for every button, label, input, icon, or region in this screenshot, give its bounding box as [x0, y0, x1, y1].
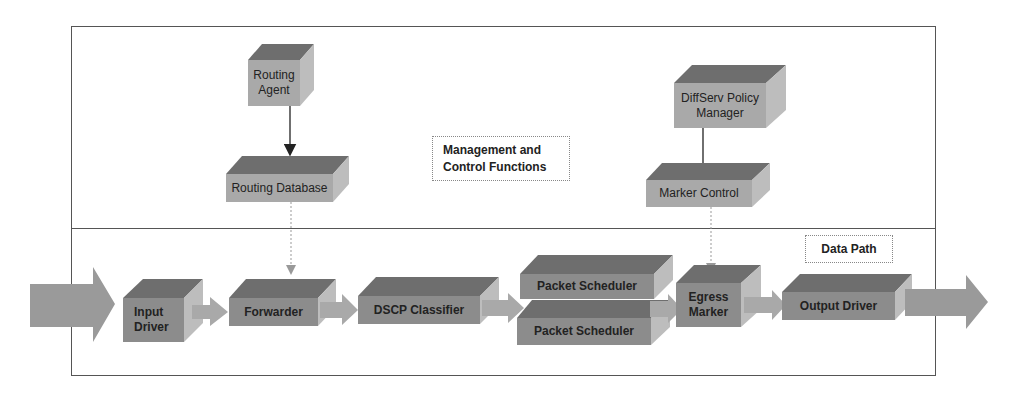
diffserv-policy-manager: DiffServ Policy Manager: [674, 83, 766, 128]
routing-agent: Routing Agent: [248, 60, 300, 106]
routing-agent-line1: Routing: [253, 68, 294, 83]
dscp-classifier-label: DSCP Classifier: [374, 303, 465, 318]
egress-marker: Egress Marker: [676, 283, 741, 327]
management-control-label: Management and Control Functions: [432, 136, 570, 181]
dscp-classifier: DSCP Classifier: [358, 296, 480, 324]
data-path-label-text: Data Path: [821, 242, 876, 256]
output-driver-label: Output Driver: [800, 299, 877, 314]
input-driver: Input Driver: [123, 298, 184, 342]
input-big-arrow: [30, 267, 115, 342]
packet-scheduler-2-label: Packet Scheduler: [534, 324, 634, 339]
management-label-line2: Control Functions: [443, 159, 546, 176]
packet-scheduler-1: Packet Scheduler: [520, 274, 654, 299]
egress-marker-line1: Egress: [688, 290, 728, 305]
marker-control-label: Marker Control: [659, 186, 738, 201]
input-driver-line2: Driver: [134, 320, 169, 335]
input-driver-line1: Input: [134, 305, 163, 320]
data-path-label: Data Path: [805, 235, 893, 263]
forwarder: Forwarder: [229, 298, 318, 326]
routing-database: Routing Database: [226, 174, 333, 202]
packet-scheduler-2: Packet Scheduler: [517, 318, 651, 345]
forwarder-label: Forwarder: [244, 305, 303, 320]
policy-manager-line2: Manager: [696, 106, 743, 121]
routing-database-label: Routing Database: [231, 181, 327, 196]
output-driver: Output Driver: [782, 292, 895, 320]
output-big-arrow: [905, 275, 988, 329]
policy-manager-line1: DiffServ Policy: [681, 91, 759, 106]
management-label-line1: Management and: [443, 142, 541, 159]
marker-control: Marker Control: [646, 180, 752, 207]
routing-agent-line2: Agent: [258, 83, 289, 98]
packet-scheduler-1-label: Packet Scheduler: [537, 279, 637, 294]
egress-marker-line2: Marker: [689, 305, 728, 320]
